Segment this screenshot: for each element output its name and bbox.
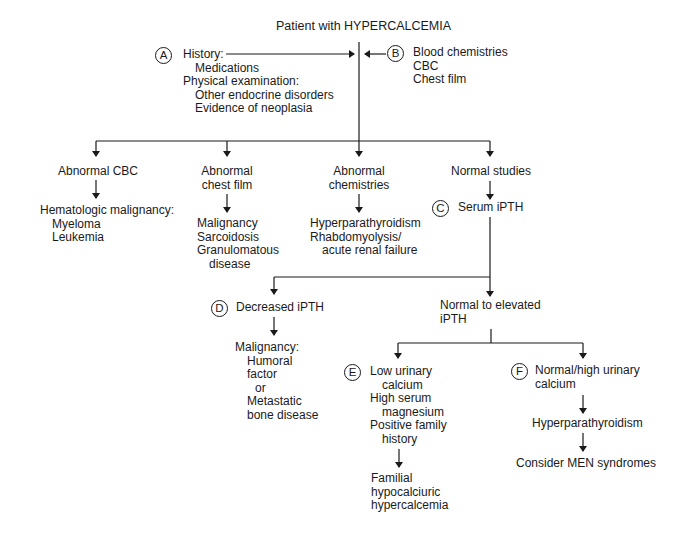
- result-humoral: Humoral: [235, 355, 318, 369]
- hypercalcemia-flowchart: Patient with HYPERCALCEMIA A History: Me…: [0, 0, 682, 538]
- node-fhh: Familial hypocalciuric hypercalcemia: [371, 472, 448, 513]
- node-a-history: History: Medications Physical examinatio…: [183, 48, 334, 116]
- result-hypocalciuric: hypocalciuric: [371, 486, 448, 500]
- result-or: or: [235, 382, 318, 396]
- result-metastatic: Metastatic: [235, 395, 318, 409]
- finding-positive-family: Positive family: [370, 419, 447, 433]
- node-abnormal-chemistries: Abnormal chemistries: [309, 165, 409, 192]
- flowchart-title: Patient with HYPERCALCEMIA: [276, 20, 451, 34]
- node-chemistries-results: Hyperparathyroidism Rhabdomyolysis/ acut…: [310, 217, 421, 258]
- test-blood-chemistries: Blood chemistries: [413, 46, 508, 60]
- marker-b: B: [387, 45, 404, 62]
- result-factor: factor: [235, 368, 318, 382]
- result-familial: Familial: [371, 472, 448, 486]
- finding-magnesium: magnesium: [370, 406, 447, 420]
- node-f-findings: Normal/high urinary calcium: [535, 364, 640, 391]
- result-leukemia: Leukemia: [40, 231, 174, 245]
- history-label: History:: [183, 48, 334, 62]
- finding-calcium: calcium: [370, 379, 447, 393]
- node-f-hyperparathyroidism: Hyperparathyroidism: [532, 417, 643, 431]
- result-disease: disease: [197, 258, 279, 272]
- result-malignancy-label: Malignancy:: [235, 341, 318, 355]
- result-myeloma: Myeloma: [40, 218, 174, 232]
- label-line: chemistries: [309, 179, 409, 193]
- label-line: iPTH: [440, 313, 541, 327]
- finding-history: history: [370, 433, 447, 447]
- physical-exam-neoplasia: Evidence of neoplasia: [183, 102, 334, 116]
- finding-normal-high-urinary: Normal/high urinary: [535, 364, 640, 378]
- node-serum-ipth: Serum iPTH: [458, 201, 523, 215]
- result-hematologic-malignancy: Hematologic malignancy:: [40, 204, 174, 218]
- history-medications: Medications: [183, 62, 334, 76]
- test-chest-film: Chest film: [413, 73, 508, 87]
- finding-high-serum: High serum: [370, 392, 447, 406]
- result-bone-disease: bone disease: [235, 409, 318, 423]
- node-decreased-ipth: Decreased iPTH: [236, 301, 324, 315]
- result-granulomatous: Granulomatous: [197, 244, 279, 258]
- marker-c: C: [432, 200, 449, 217]
- result-hyperparathyroidism: Hyperparathyroidism: [310, 217, 421, 231]
- node-abnormal-chest-film: Abnormal chest film: [177, 165, 277, 192]
- marker-a: A: [155, 47, 172, 64]
- marker-f: F: [511, 363, 528, 380]
- node-normal-to-elevated-ipth: Normal to elevated iPTH: [440, 299, 541, 326]
- node-abnormal-cbc: Abnormal CBC: [48, 165, 148, 179]
- physical-exam-endocrine: Other endocrine disorders: [183, 89, 334, 103]
- finding-low-urinary: Low urinary: [370, 365, 447, 379]
- node-malignancy-results: Malignancy: Humoral factor or Metastatic…: [235, 341, 318, 423]
- node-normal-studies: Normal studies: [451, 165, 531, 179]
- marker-e: E: [344, 364, 361, 381]
- result-malignancy: Malignancy: [197, 217, 279, 231]
- label-line: chest film: [177, 179, 277, 193]
- test-cbc: CBC: [413, 60, 508, 74]
- result-rhabdomyolysis: Rhabdomyolysis/: [310, 231, 421, 245]
- label-line: Abnormal: [309, 165, 409, 179]
- node-b-tests: Blood chemistries CBC Chest film: [413, 46, 508, 87]
- finding-calcium: calcium: [535, 378, 640, 392]
- result-hypercalcemia: hypercalcemia: [371, 499, 448, 513]
- label-line: Abnormal: [177, 165, 277, 179]
- node-consider-men: Consider MEN syndromes: [516, 457, 656, 471]
- result-sarcoidosis: Sarcoidosis: [197, 231, 279, 245]
- result-acute-renal-failure: acute renal failure: [310, 244, 421, 258]
- node-e-findings: Low urinary calcium High serum magnesium…: [370, 365, 447, 447]
- node-hematologic-malignancy: Hematologic malignancy: Myeloma Leukemia: [40, 204, 174, 245]
- physical-exam-label: Physical examination:: [183, 75, 334, 89]
- node-chest-film-results: Malignancy Sarcoidosis Granulomatous dis…: [197, 217, 279, 271]
- label-line: Normal to elevated: [440, 299, 541, 313]
- marker-d: D: [211, 300, 228, 317]
